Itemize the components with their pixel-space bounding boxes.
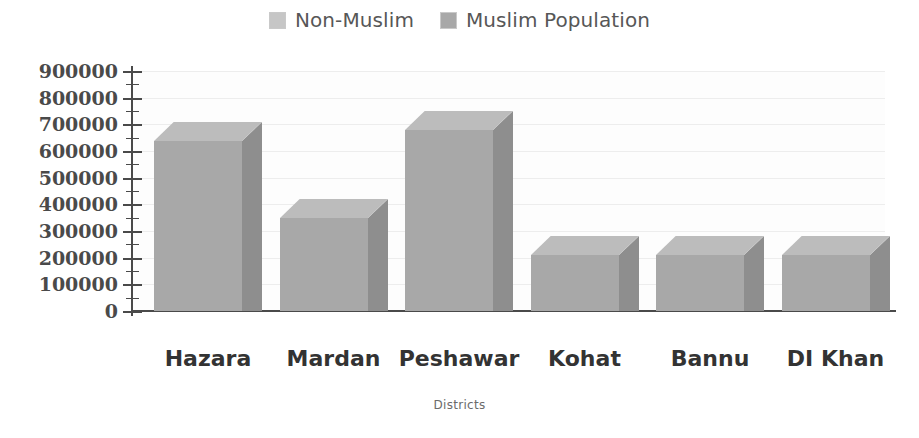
bar-column[interactable]: [656, 236, 764, 311]
y-axis-tick-label: 700000: [39, 113, 118, 135]
y-axis-tick-label: 600000: [39, 140, 118, 162]
y-axis-tick-label: 900000: [39, 60, 118, 82]
y-axis-tick-label: 400000: [39, 193, 118, 215]
legend-swatch-icon-non-muslim: [269, 12, 286, 29]
bar-front-face: [656, 255, 744, 311]
bar-front-face: [531, 255, 619, 311]
x-axis-category-label: DI Khan: [787, 346, 884, 371]
legend-item-muslim-population: Muslim Population: [440, 8, 650, 32]
y-axis-tick-label: 500000: [39, 167, 118, 189]
y-axis-tick-label: 100000: [39, 273, 118, 295]
bar-side-face: [493, 130, 513, 311]
y-axis-tick-label: 200000: [39, 247, 118, 269]
bar-side-face: [870, 255, 890, 311]
bar-column[interactable]: [531, 236, 639, 311]
bar-front-face: [280, 218, 368, 311]
bar-column[interactable]: [405, 111, 513, 311]
bar-side-face: [619, 255, 639, 311]
y-tick-major: [123, 311, 142, 313]
legend-item-non-muslim: Non-Muslim: [269, 8, 414, 32]
legend-label-non-muslim: Non-Muslim: [295, 8, 414, 32]
x-axis-category-label: Kohat: [548, 346, 621, 371]
bar-column[interactable]: [280, 199, 388, 311]
y-axis-tick-label: 300000: [39, 220, 118, 242]
x-axis-category-label: Mardan: [287, 346, 381, 371]
bar-column[interactable]: [782, 236, 890, 311]
x-axis-category-labels: HazaraMardanPeshawarKohatBannuDI Khan: [132, 346, 885, 376]
y-axis-tick-label: 0: [105, 300, 118, 322]
y-axis-tick-labels: 9000008000007000006000005000004000003000…: [0, 71, 132, 311]
legend-swatch-icon-muslim-population: [440, 12, 457, 29]
bar-side-face: [368, 218, 388, 311]
bar-front-face: [782, 255, 870, 311]
bar-side-face: [744, 255, 764, 311]
x-axis-category-label: Peshawar: [399, 346, 520, 371]
y-axis-tick-label: 800000: [39, 87, 118, 109]
legend-label-muslim-population: Muslim Population: [466, 8, 650, 32]
bar-front-face: [405, 130, 493, 311]
bar-front-face: [154, 141, 242, 311]
x-axis-title: Districts: [0, 398, 919, 412]
bar-side-face: [242, 141, 262, 311]
bar-series-muslim-population: [132, 71, 885, 311]
x-axis-category-label: Hazara: [165, 346, 252, 371]
bar-column[interactable]: [154, 122, 262, 311]
chart-legend: Non-Muslim Muslim Population: [0, 8, 919, 32]
x-axis-category-label: Bannu: [671, 346, 750, 371]
